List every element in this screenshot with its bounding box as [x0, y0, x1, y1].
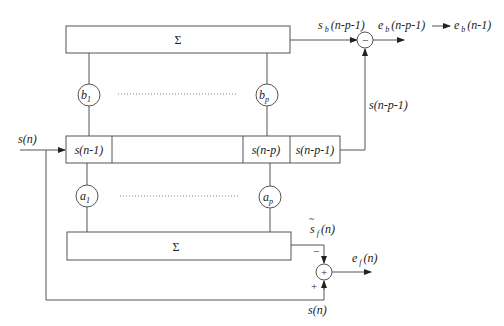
sf-tilde: ~	[309, 213, 315, 224]
svg-text:−: −	[362, 34, 368, 46]
register-cell-p1: s(n-p-1)	[296, 143, 335, 157]
plus-sign: +	[311, 280, 317, 292]
coefficient-ap: ap	[259, 186, 281, 208]
sf-label: sf(n)	[310, 222, 335, 238]
eb-delayed-label: eb(n-1)	[454, 18, 491, 34]
bottom-input-label: s(n)	[308, 303, 327, 317]
shift-register: s(n-1) s(n-p) s(n-p-1)	[66, 136, 340, 163]
eb-label: eb(n-p-1)	[378, 18, 425, 34]
input-bypass-wire	[46, 150, 324, 300]
feedback-label: s(n-p-1)	[369, 98, 408, 112]
coefficient-a1: a1	[76, 185, 98, 207]
sb-label: sb(n-p-1)	[318, 18, 365, 34]
feedback-wire	[340, 49, 365, 150]
svg-text:+: +	[321, 266, 327, 278]
coefficient-b1: b1	[78, 84, 100, 106]
adder-node: +	[316, 264, 332, 280]
minus-sign: −	[313, 245, 319, 257]
top-sum-block: Σ	[66, 26, 290, 53]
lattice-predictor-diagram: Σ b1 bp s(n-1) s(n-p) s(n-p-1) s(n) a1	[0, 0, 504, 326]
input-label: s(n)	[18, 132, 37, 146]
bottom-sum-block: Σ	[67, 232, 291, 260]
subtractor-node: −	[357, 32, 373, 48]
coefficient-bp: bp	[256, 84, 278, 106]
register-cell-p: s(n-p)	[252, 143, 281, 157]
sum-symbol: Σ	[175, 33, 182, 47]
sum-symbol: Σ	[173, 240, 180, 254]
ef-label: ef(n)	[352, 251, 378, 267]
register-cell-1: s(n-1)	[75, 143, 104, 157]
